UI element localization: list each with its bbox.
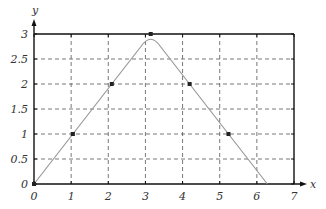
x-tick-label: 6 — [253, 190, 260, 203]
y-tick-label: 0.5 — [11, 153, 29, 166]
x-tick-label: 1 — [68, 190, 75, 203]
data-point-marker — [149, 32, 153, 36]
data-point-marker — [110, 82, 114, 86]
y-tick-label: 2.5 — [10, 53, 29, 66]
x-axis-label: x — [310, 178, 317, 191]
x-tick-label: 2 — [104, 190, 112, 203]
y-tick-label: 0 — [21, 178, 28, 191]
data-point-marker — [32, 182, 36, 186]
grid-lines — [34, 34, 294, 184]
y-tick-label: 1 — [21, 128, 28, 141]
plot-frame — [32, 19, 308, 187]
line-chart: 0123456700.511.522.53 x y — [0, 0, 326, 209]
tick-labels: 0123456700.511.522.53 — [10, 28, 298, 203]
curve-line — [34, 39, 267, 184]
y-tick-label: 2 — [20, 78, 28, 91]
x-tick-label: 0 — [31, 190, 38, 203]
x-tick-label: 7 — [291, 190, 298, 203]
y-axis-label: y — [31, 4, 39, 17]
x-tick-label: 3 — [142, 190, 149, 203]
x-tick-label: 4 — [178, 190, 186, 203]
y-tick-label: 3 — [21, 28, 28, 41]
data-point-marker — [226, 132, 230, 136]
data-point-marker — [71, 132, 75, 136]
data-point-marker — [188, 82, 192, 86]
y-tick-label: 1.5 — [11, 103, 29, 116]
x-tick-label: 5 — [216, 190, 223, 203]
